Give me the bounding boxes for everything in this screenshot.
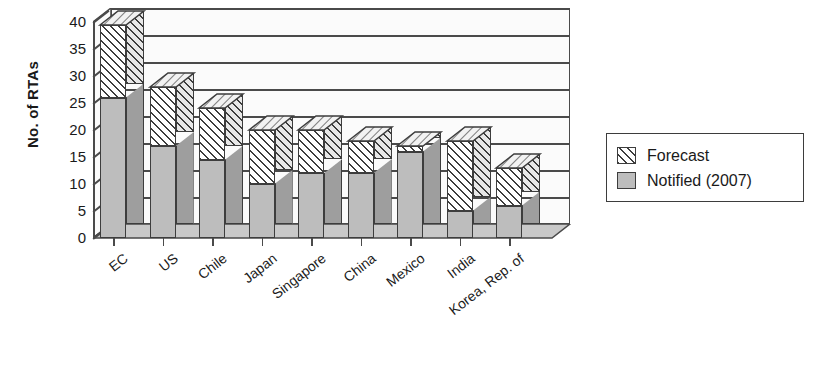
y-tick-label-40: 40 <box>52 14 86 29</box>
x-tick-6 <box>361 238 363 246</box>
x-tick-3 <box>212 238 214 246</box>
legend-label-notified: Notified (2007) <box>647 173 752 189</box>
bar-segment-forecast <box>100 25 126 98</box>
bar-segment-forecast <box>249 130 275 184</box>
bar-segment-notified <box>150 146 176 238</box>
bar-segment-notified-side <box>275 170 293 224</box>
bar-segment-notified <box>298 173 324 238</box>
bar-japan <box>249 0 293 238</box>
bar-us <box>150 0 194 238</box>
bar-china <box>348 0 392 238</box>
bar-segment-notified <box>199 160 225 238</box>
bar-segment-notified-side <box>473 197 491 224</box>
bar-mexico <box>397 0 441 238</box>
bar-ec <box>100 0 144 238</box>
bar-segment-notified-side <box>225 146 243 224</box>
bar-top-cap <box>496 154 540 168</box>
x-tick-4 <box>262 238 264 246</box>
bar-segment-notified <box>348 173 374 238</box>
legend-item-forecast: Forecast <box>617 147 793 164</box>
bar-segment-notified-side <box>374 159 392 224</box>
bar-segment-forecast <box>199 108 225 159</box>
bar-segment-forecast <box>298 130 324 173</box>
bar-segment-forecast <box>150 87 176 146</box>
bar-segment-notified <box>496 206 522 238</box>
x-tick-9 <box>509 238 511 246</box>
bar-segment-notified-side <box>176 132 194 224</box>
y-tick-labels: 40 35 30 25 20 15 10 5 0 <box>52 0 86 260</box>
legend-swatch-notified-icon <box>617 172 636 189</box>
bar-india <box>447 0 491 238</box>
bar-segment-notified <box>397 152 423 238</box>
legend-item-notified: Notified (2007) <box>617 172 793 189</box>
bar-segment-notified-side <box>522 192 540 224</box>
bar-top-cap <box>249 116 293 130</box>
x-tick-8 <box>460 238 462 246</box>
bar-segment-notified <box>447 211 473 238</box>
bar-top-cap <box>150 73 194 87</box>
bar-top-cap <box>199 94 243 108</box>
bar-top-cap <box>447 127 491 141</box>
legend-label-forecast: Forecast <box>647 148 709 164</box>
chart-legend: Forecast Notified (2007) <box>606 133 804 202</box>
bar-segment-notified-side <box>423 138 441 224</box>
bar-segment-notified-side <box>324 159 342 224</box>
x-tick-7 <box>410 238 412 246</box>
y-tick-label-15: 15 <box>52 149 86 164</box>
bar-segment-forecast <box>447 141 473 211</box>
bar-top-cap <box>397 132 441 146</box>
bar-segment-notified <box>100 98 126 238</box>
rta-stacked-bar-chart: No. of RTAs <box>0 0 814 376</box>
y-tick-label-0: 0 <box>52 230 86 245</box>
y-tick-label-35: 35 <box>52 41 86 56</box>
bar-segment-forecast <box>348 141 374 173</box>
y-tick-label-25: 25 <box>52 95 86 110</box>
bar-top-cap <box>298 116 342 130</box>
y-tick-label-5: 5 <box>52 203 86 218</box>
bar-chile <box>199 0 243 238</box>
y-tick-label-10: 10 <box>52 176 86 191</box>
legend-swatch-forecast-icon <box>617 147 636 164</box>
bar-segment-notified <box>249 184 275 238</box>
x-tick-5 <box>311 238 313 246</box>
bar-singapore <box>298 0 342 238</box>
y-tick-label-30: 30 <box>52 68 86 83</box>
y-tick-label-20: 20 <box>52 122 86 137</box>
bar-segment-forecast <box>496 168 522 206</box>
bar-top-cap <box>348 127 392 141</box>
bar-korea-rep-of <box>496 0 540 238</box>
bar-segment-notified-side <box>126 84 144 224</box>
x-tick-1 <box>113 238 115 246</box>
bar-top-cap <box>100 11 144 25</box>
x-tick-2 <box>163 238 165 246</box>
